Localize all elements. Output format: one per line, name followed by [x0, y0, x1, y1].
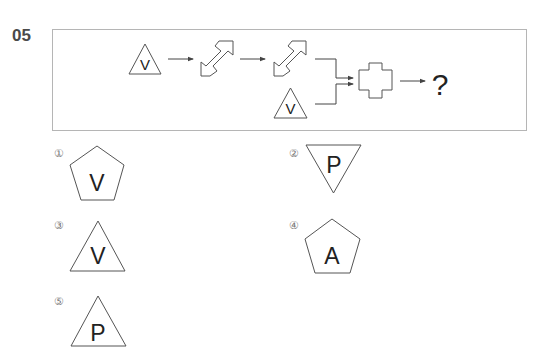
option-1[interactable]: ① V [54, 146, 124, 200]
connector-bottom [315, 84, 353, 104]
second-input-triangle-figure: V [274, 88, 307, 118]
result-question-mark: ? [432, 68, 449, 101]
question-figure: V V ? ① V ② P ③ V [0, 0, 538, 364]
start-figure-letter: V [140, 56, 150, 73]
option-3-letter: V [90, 243, 106, 269]
cross-operator [359, 63, 392, 98]
option-2-marker: ② [289, 147, 299, 160]
option-4-marker: ④ [289, 219, 299, 232]
option-5[interactable]: ⑤ P [54, 295, 126, 346]
option-2-letter: P [326, 152, 341, 178]
option-3-marker: ③ [54, 219, 64, 232]
connector-top [315, 59, 353, 78]
option-1-letter: V [89, 170, 105, 196]
option-4[interactable]: ④ A [289, 219, 360, 273]
option-4-letter: A [324, 243, 340, 269]
option-1-marker: ① [54, 147, 64, 160]
double-arrow-operator-2 [274, 41, 306, 76]
double-arrow-operator-1 [201, 41, 233, 76]
option-3[interactable]: ③ V [54, 219, 125, 271]
option-5-letter: P [90, 320, 105, 346]
option-5-marker: ⑤ [54, 295, 64, 308]
second-input-letter: V [285, 100, 295, 117]
start-triangle-figure: V [129, 44, 161, 74]
option-2[interactable]: ② P [289, 145, 361, 193]
